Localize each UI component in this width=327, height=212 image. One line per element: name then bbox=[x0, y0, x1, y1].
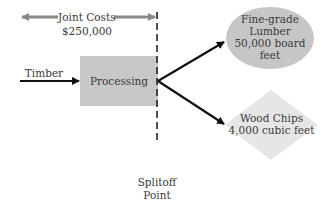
joint-costs-amount: $250,000 bbox=[52, 25, 122, 37]
woodchips-line1: Wood Chips bbox=[225, 112, 318, 124]
lumber-line4: feet bbox=[226, 49, 314, 61]
splitoff-line1: Splitoff bbox=[127, 176, 187, 188]
splitoff-line2: Point bbox=[127, 189, 187, 201]
lumber-line3: 50,000 board bbox=[226, 37, 314, 49]
timber-label: Timber bbox=[24, 67, 64, 79]
processing-label: Processing bbox=[80, 75, 158, 87]
lumber-line1: Fine-grade bbox=[226, 13, 314, 25]
lumber-arrow bbox=[158, 42, 224, 81]
woodchips-arrow bbox=[158, 81, 224, 124]
woodchips-line2: 4,000 cubic feet bbox=[225, 124, 318, 136]
lumber-line2: Lumber bbox=[226, 25, 314, 37]
joint-costs-label: Joint Costs bbox=[58, 11, 114, 23]
